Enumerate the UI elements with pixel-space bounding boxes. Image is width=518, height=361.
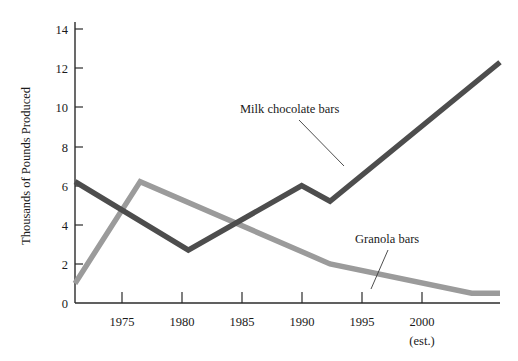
annotation-label-milk-chocolate-bars: Milk chocolate bars <box>240 102 339 116</box>
x-tick-label-2000: 2000 <box>410 315 435 329</box>
annotation-label-granola-bars: Granola bars <box>355 232 419 246</box>
series-line-milk-chocolate-bars <box>75 62 500 250</box>
y-tick-label-10: 10 <box>56 101 69 115</box>
y-tick-label-2: 2 <box>62 258 68 272</box>
y-tick-label-4: 4 <box>62 219 69 233</box>
x-tick-label-1995: 1995 <box>350 315 375 329</box>
chart-container: Thousands of Pounds Produced 14 12 10 8 … <box>0 0 518 361</box>
annotation-leader-milk-chocolate-bars <box>299 120 344 166</box>
y-tick-label-0: 0 <box>62 297 68 311</box>
x-tick-label-1990: 1990 <box>290 315 315 329</box>
series-line-granola-bars <box>75 182 500 294</box>
y-tick-label-8: 8 <box>62 141 68 155</box>
x-tick-label-1975: 1975 <box>110 315 135 329</box>
y-axis-title: Thousands of Pounds Produced <box>19 86 33 245</box>
x-tick-label-1985: 1985 <box>230 315 255 329</box>
line-chart: Thousands of Pounds Produced 14 12 10 8 … <box>0 0 518 361</box>
y-tick-label-14: 14 <box>56 23 69 37</box>
annotation-leader-granola-bars <box>371 250 388 289</box>
x-tick-label-1980: 1980 <box>170 315 195 329</box>
y-tick-label-6: 6 <box>62 180 68 194</box>
x-tick-sublabel-est: (est.) <box>409 334 434 348</box>
y-tick-label-12: 12 <box>56 62 69 76</box>
